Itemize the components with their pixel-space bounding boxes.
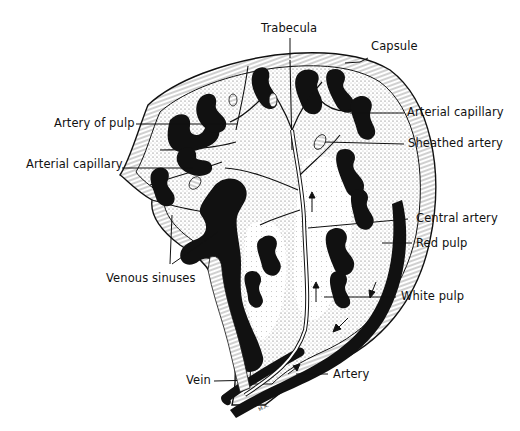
label-vein: Vein (186, 375, 211, 387)
label-sheathed-artery: Sheathed artery (408, 138, 503, 150)
label-arterial-capillary-right: Arterial capillary (407, 107, 504, 119)
label-artery-of-pulp: Artery of pulp (54, 118, 135, 130)
label-venous-sinuses: Venous sinuses (106, 273, 196, 285)
spleen-diagram: Trabecula Capsule Arterial capillary She… (0, 0, 520, 431)
label-white-pulp: White pulp (401, 291, 464, 303)
label-artery: Artery (333, 369, 369, 381)
label-central-artery: Central artery (416, 213, 498, 225)
label-trabecula: Trabecula (261, 23, 317, 35)
label-red-pulp: Red pulp (416, 238, 467, 250)
label-capsule: Capsule (371, 41, 418, 53)
label-arterial-capillary-left: Arterial capillary (26, 159, 123, 171)
pulp-region (136, 66, 420, 384)
